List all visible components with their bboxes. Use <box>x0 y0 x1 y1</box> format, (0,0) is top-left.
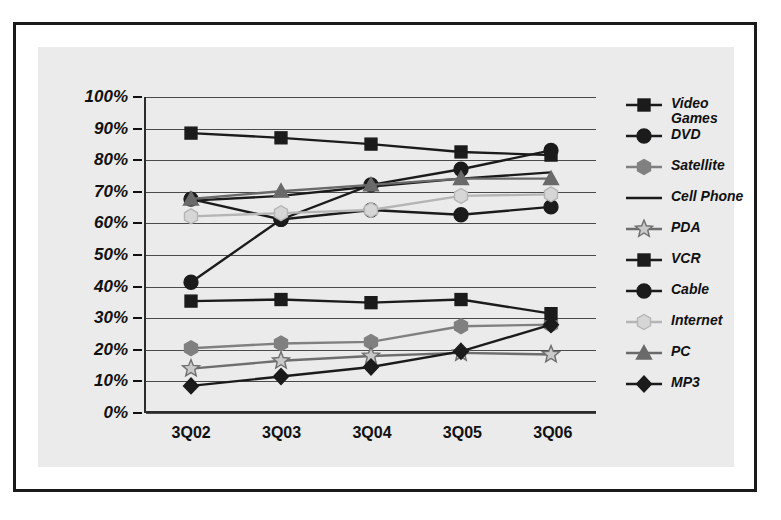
data-point-marker <box>275 132 287 144</box>
data-point-marker <box>365 203 378 218</box>
circle-marker-icon <box>624 281 664 301</box>
legend-label: Internet <box>671 312 722 328</box>
y-tick-mark <box>133 412 142 414</box>
legend-label: Cable <box>671 281 709 297</box>
data-point-marker <box>185 209 198 224</box>
chart-panel: 100%90%80%70%60%50%40%30%20%10%0% 3Q023Q… <box>38 47 734 467</box>
circle-marker-icon <box>624 126 664 146</box>
data-point-marker <box>454 343 469 359</box>
legend-label: Cell Phone <box>671 188 743 204</box>
y-axis-tick-label: 60% <box>94 213 146 233</box>
legend-label: PC <box>671 343 690 359</box>
y-axis-tick-label: 0% <box>103 403 146 423</box>
y-tick-mark <box>133 380 142 382</box>
legend-label: Video Games <box>671 95 718 126</box>
y-tick-mark <box>133 254 142 256</box>
hexagon-marker-icon <box>624 312 664 332</box>
x-axis-tick-label: 3Q06 <box>533 424 572 442</box>
y-axis-tick-label: 100% <box>85 87 146 107</box>
data-point-marker <box>274 369 289 385</box>
data-point-marker <box>185 341 198 356</box>
x-axis-tick-label: 3Q03 <box>262 424 301 442</box>
legend-label: PDA <box>671 219 701 235</box>
data-point-marker <box>184 275 198 289</box>
y-axis-tick-label: 70% <box>94 182 146 202</box>
star-marker-icon <box>624 219 664 239</box>
y-axis-tick-label: 90% <box>94 119 146 139</box>
y-tick-mark <box>133 222 142 224</box>
legend-item-cable[interactable]: Cable <box>624 281 748 303</box>
data-point-marker <box>185 295 197 307</box>
y-tick-mark <box>133 191 142 193</box>
data-point-marker <box>455 146 467 158</box>
legend-item-cell-phone[interactable]: Cell Phone <box>624 188 748 210</box>
legend-label: VCR <box>671 250 701 266</box>
data-point-marker <box>455 294 467 306</box>
y-axis-tick-label: 50% <box>94 245 146 265</box>
square-marker-icon <box>624 250 664 270</box>
gridline <box>146 413 596 414</box>
y-tick-mark <box>133 96 142 98</box>
legend-item-internet[interactable]: Internet <box>624 312 748 334</box>
legend-label: Satellite <box>671 157 725 173</box>
legend-item-video-games[interactable]: Video Games <box>624 95 748 117</box>
y-tick-mark <box>133 159 142 161</box>
figure-frame: 100%90%80%70%60%50%40%30%20%10%0% 3Q023Q… <box>13 22 757 492</box>
data-point-marker <box>542 346 559 362</box>
data-point-marker <box>365 297 377 309</box>
chart-legend: Video GamesDVDSatelliteCell PhonePDAVCRC… <box>624 95 748 405</box>
data-point-marker <box>275 294 287 306</box>
series-vcr <box>185 294 557 320</box>
y-axis-tick-label: 10% <box>94 371 146 391</box>
legend-label: MP3 <box>671 374 700 390</box>
y-axis-tick-label: 20% <box>94 340 146 360</box>
diamond-marker-icon <box>624 374 664 394</box>
y-tick-mark <box>133 349 142 351</box>
legend-label: DVD <box>671 126 701 142</box>
legend-item-dvd[interactable]: DVD <box>624 126 748 148</box>
data-point-marker <box>545 187 558 202</box>
line-icon <box>624 188 664 208</box>
triangle-marker-icon <box>624 343 664 363</box>
series-video-games <box>185 127 557 161</box>
x-axis-tick-label: 3Q04 <box>352 424 391 442</box>
data-point-marker <box>182 360 199 376</box>
legend-item-pc[interactable]: PC <box>624 343 748 365</box>
square-marker-icon <box>624 95 664 115</box>
y-tick-mark <box>133 286 142 288</box>
data-point-marker <box>455 188 468 203</box>
data-point-marker <box>272 352 289 368</box>
y-axis-tick-label: 40% <box>94 277 146 297</box>
y-axis-tick-label: 80% <box>94 150 146 170</box>
data-point-marker <box>544 143 558 157</box>
legend-item-satellite[interactable]: Satellite <box>624 157 748 179</box>
legend-item-vcr[interactable]: VCR <box>624 250 748 272</box>
series-layer <box>146 97 596 411</box>
hexagon-marker-icon <box>624 157 664 177</box>
y-tick-mark <box>133 317 142 319</box>
legend-item-pda[interactable]: PDA <box>624 219 748 241</box>
data-point-marker <box>455 319 468 334</box>
y-tick-mark <box>133 128 142 130</box>
x-axis-tick-label: 3Q05 <box>443 424 482 442</box>
data-point-marker <box>275 336 288 351</box>
data-point-marker <box>184 378 199 394</box>
y-axis-tick-label: 30% <box>94 308 146 328</box>
x-axis-tick-label: 3Q02 <box>172 424 211 442</box>
legend-item-mp3[interactable]: MP3 <box>624 374 748 396</box>
data-point-marker <box>185 127 197 139</box>
data-point-marker <box>454 208 468 222</box>
data-point-marker <box>365 138 377 150</box>
plot-area: 100%90%80%70%60%50%40%30%20%10%0% 3Q023Q… <box>144 97 596 413</box>
data-point-marker <box>275 206 288 221</box>
